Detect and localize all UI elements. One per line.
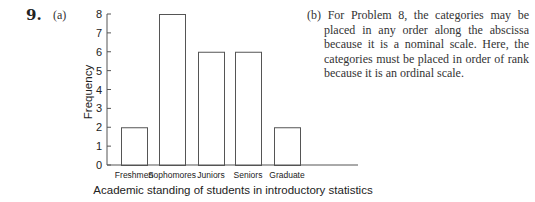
x-category-label: Seniors (234, 170, 263, 180)
y-tick-label: 3 (96, 102, 102, 114)
y-tick-label: 1 (96, 140, 102, 152)
part-b-answer: (b) For Problem 8, the categories may be… (307, 8, 529, 81)
y-tick-label: 6 (96, 46, 102, 58)
part-b-label: (b) (307, 8, 321, 22)
y-tick-label: 0 (96, 159, 102, 171)
y-axis: 012345678 (96, 8, 111, 171)
y-axis-title: Frequency (82, 65, 94, 120)
y-tick-label: 4 (96, 84, 102, 96)
y-tick-label: 8 (96, 8, 102, 20)
bar-graduate (275, 128, 301, 166)
x-axis-title: Academic standing of students in introdu… (93, 184, 373, 196)
bar-sophomores (160, 15, 186, 166)
bar-freshmen (122, 128, 148, 166)
y-tick-label: 2 (96, 121, 102, 133)
x-category-label: Juniors (197, 170, 224, 180)
bar-seniors (236, 52, 262, 165)
y-tick-label: 7 (96, 27, 102, 39)
x-category-label: Sophomores (148, 170, 196, 180)
y-tick-label: 5 (96, 65, 102, 77)
x-axis: FreshmenSophomoresJuniorsSeniorsGraduate (107, 165, 358, 180)
part-b-text: For Problem 8, the categories may be pla… (324, 8, 529, 80)
x-category-label: Graduate (269, 170, 305, 180)
bars (122, 15, 301, 166)
bar-juniors (199, 52, 225, 165)
